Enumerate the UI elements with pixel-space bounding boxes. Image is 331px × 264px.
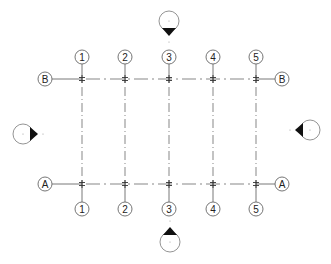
elevation-center-dot	[309, 129, 310, 130]
marker-tick-dot	[42, 133, 43, 134]
grid-bubble-2-top: 2	[118, 50, 132, 64]
grid-label: B	[42, 74, 49, 85]
marker-tick-dot	[289, 129, 290, 130]
grid-bubble-1-bottom: 1	[75, 202, 89, 216]
grid-bubble-B-right: B	[275, 72, 289, 86]
grid-bubble-1-top: 1	[75, 50, 89, 64]
grid-bubble-4-bottom: 4	[206, 202, 220, 216]
grid-bubble-A-left: A	[38, 177, 52, 191]
elevation-marker-east	[289, 120, 320, 140]
grid-bubble-4-top: 4	[206, 50, 220, 64]
grid-bubble-3-top: 3	[162, 50, 176, 64]
elevation-center-dot	[168, 20, 169, 21]
grid-label: 3	[166, 204, 172, 215]
grid-bubble-B-left: B	[38, 72, 52, 86]
grid-label: A	[42, 179, 49, 190]
grid-bubble-A-right: A	[275, 177, 289, 191]
grid-label: 2	[122, 52, 128, 63]
elevation-marker-north	[159, 11, 179, 43]
elevation-center-dot	[22, 133, 23, 134]
grid-label: 2	[122, 204, 128, 215]
grid-lines	[52, 64, 275, 202]
grid-bubble-5-bottom: 5	[249, 202, 263, 216]
elevation-marker-west	[13, 124, 44, 144]
grid-bubble-5-top: 5	[249, 50, 263, 64]
grid-label: 5	[253, 204, 259, 215]
grid-label: B	[279, 74, 286, 85]
grid-label: 5	[253, 52, 259, 63]
grid-bubbles: 1122334455BBAA	[38, 50, 289, 216]
marker-tick-dot	[168, 41, 169, 42]
elevation-marker-south	[160, 220, 180, 252]
grid-label: 4	[210, 204, 216, 215]
elevation-center-dot	[169, 241, 170, 242]
grid-label: A	[279, 179, 286, 190]
marker-tick-dot	[169, 220, 170, 221]
direction-arrow-icon	[162, 28, 176, 36]
grid-label: 1	[79, 204, 85, 215]
grid-bubble-3-bottom: 3	[162, 202, 176, 216]
grid-bubble-2-bottom: 2	[118, 202, 132, 216]
grid-label: 1	[79, 52, 85, 63]
grid-label: 4	[210, 52, 216, 63]
direction-arrow-icon	[295, 123, 303, 137]
direction-arrow-icon	[163, 227, 177, 235]
grid-plan-canvas: 1122334455BBAA	[0, 0, 331, 264]
direction-arrow-icon	[30, 127, 38, 141]
grid-label: 3	[166, 52, 172, 63]
